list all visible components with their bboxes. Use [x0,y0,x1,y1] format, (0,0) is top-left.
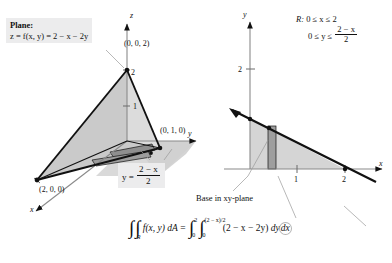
slice-dot [149,151,153,155]
boundary-line-arrow-left [229,108,241,118]
dot-x-intercept-2d [343,167,347,171]
axis-label-x-3d: x [29,205,34,214]
inner-integral: ∫ (2 − x)/2 0 [199,220,204,236]
boundary-fraction: 2 − x 2 [137,165,160,186]
axis-label-x-2d: x [378,159,383,168]
region-y-den: 2 [335,35,357,45]
plot-3d [34,24,196,211]
vertex-dot-x [35,178,40,183]
leader-plane-label [106,50,124,68]
z-tick-label-1: 1 [133,102,137,111]
x-tick-label-2-2d: 2 [342,175,346,184]
integral-lhs-integrand: f(x, y) dA [143,223,178,233]
differential-dx: dx [281,223,290,233]
region-y-fraction: 2 − x 2 [335,25,357,45]
inner-lower-limit: 0 [202,232,205,238]
differential-dx-highlight: dx [280,223,291,233]
integral-region-sub: R [137,234,141,240]
z-tick-label-2: 2 [131,68,135,77]
leader-dx-label [344,206,366,226]
region-callout-line2: 0 ≤ y ≤ 2 − x 2 [308,25,358,45]
dot-strip-top-2d [267,126,271,130]
integral-equals: = [180,223,185,233]
region-callout: R: 0 ≤ x ≤ 2 0 ≤ y ≤ 2 − x 2 [296,14,358,45]
boundary-num: 2 − x [137,165,160,176]
integrand: (2 − x − 2y) [223,223,269,233]
axis-label-z-3d: z [129,11,134,20]
y-tick-label-2-2d: 2 [238,65,242,74]
base-caption: Base in xy-plane [196,193,253,203]
vertex-dot-z [125,68,130,73]
axis-label-y-3d: y [187,129,192,138]
plane-callout: Plane: z = f(x, y) = 2 − x − 2y [6,18,92,43]
plane-callout-title: Plane: [10,20,88,31]
region-x-bounds: 0 ≤ x ≤ 2 [306,14,337,24]
double-integral-sign-2: ∫ R [135,220,140,236]
vertex-label-z: (0, 0, 2) [124,39,150,48]
integral-expression: ∫ ∫ R f(x, y) dA = ∫ 2 0 ∫ (2 − x)/2 0 (… [128,220,291,236]
outer-integral: ∫ 2 0 [189,220,194,236]
outer-lower-limit: 0 [192,232,195,238]
x-tick-label-1-2d: 1 [294,175,298,184]
boundary-callout: y = 2 − x 2 [118,163,165,188]
region-name: R: [296,14,304,24]
boundary-den: 2 [137,176,160,186]
axis-label-y-2d: y [242,10,247,19]
inner-upper-limit: (2 − x)/2 [204,217,225,223]
outer-upper-limit: 2 [194,217,197,223]
region-y-prefix: 0 ≤ y ≤ [308,31,332,41]
double-integral-sign-1: ∫ [129,220,134,236]
vertex-label-x: (2, 0, 0) [39,185,65,194]
integral-glyph: ∫ [129,217,134,238]
dot-y-intercept-2d [248,117,252,121]
plane-callout-equation: z = f(x, y) = 2 − x − 2y [10,31,88,42]
vertex-dot-y [158,146,163,151]
region-callout-line1: R: 0 ≤ x ≤ 2 [296,14,358,24]
boundary-lhs: y = [122,172,134,182]
vertex-label-y: (0, 1, 0) [160,126,186,135]
